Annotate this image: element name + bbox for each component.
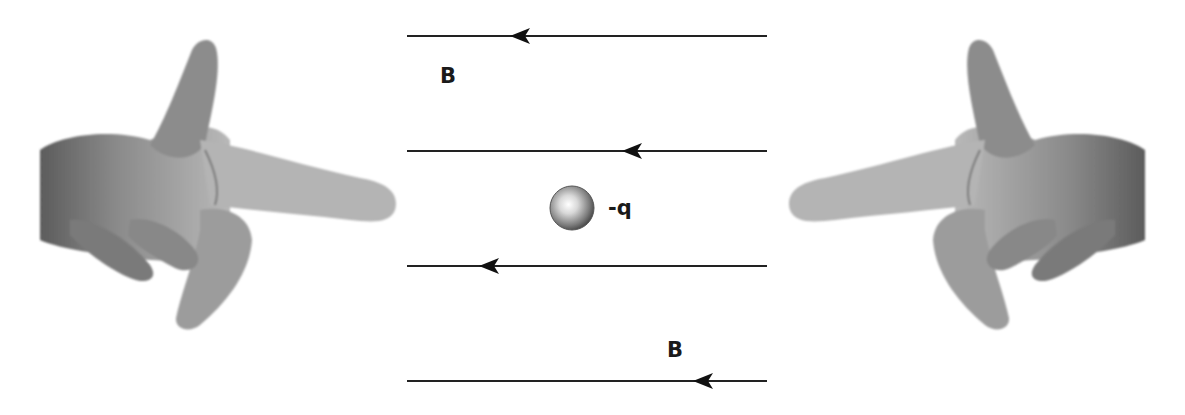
field-line-2 bbox=[407, 143, 767, 159]
diagram-stage: B -q B bbox=[0, 0, 1185, 415]
charge-label: -q bbox=[608, 198, 632, 219]
left-hand bbox=[40, 40, 396, 330]
field-line-4 bbox=[407, 373, 767, 389]
field-label-top: B bbox=[440, 66, 456, 87]
field-line-1 bbox=[407, 28, 767, 44]
right-hand bbox=[789, 40, 1145, 330]
diagram-canvas bbox=[0, 0, 1185, 415]
charge-sphere bbox=[550, 186, 594, 230]
field-label-bottom: B bbox=[667, 340, 683, 361]
field-line-3 bbox=[407, 258, 767, 274]
